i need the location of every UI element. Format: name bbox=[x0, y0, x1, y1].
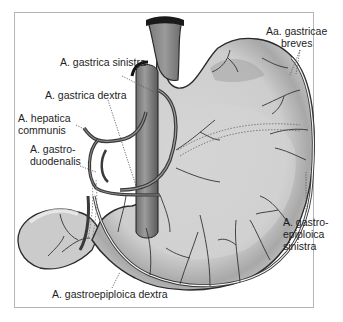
label-gastrica-sinistra: A. gastrica sinistra bbox=[60, 56, 146, 68]
label-gastroepiploica-dextra: A. gastroepiploica dextra bbox=[52, 288, 168, 300]
label-line: sinistra bbox=[283, 240, 329, 252]
label-line: epiploica bbox=[283, 228, 329, 240]
label-hepatica-communis: A. hepatica communis bbox=[18, 112, 71, 136]
aorta bbox=[136, 65, 158, 239]
label-gastricae-breves: Aa. gastricae breves bbox=[266, 25, 327, 49]
label-line: communis bbox=[18, 124, 71, 136]
label-line: A. hepatica bbox=[18, 112, 71, 124]
label-line: duodenalis bbox=[30, 155, 81, 167]
label-line: breves bbox=[266, 37, 327, 49]
label-line: A. gastro- bbox=[283, 216, 329, 228]
label-gastrica-dextra: A. gastrica dextra bbox=[45, 89, 127, 101]
label-gastroepiploica-sinistra: A. gastro- epiploica sinistra bbox=[283, 216, 329, 252]
label-line: A. gastro- bbox=[30, 143, 81, 155]
label-gastroduodenalis: A. gastro- duodenalis bbox=[30, 143, 81, 167]
label-line: Aa. gastricae bbox=[266, 25, 327, 37]
